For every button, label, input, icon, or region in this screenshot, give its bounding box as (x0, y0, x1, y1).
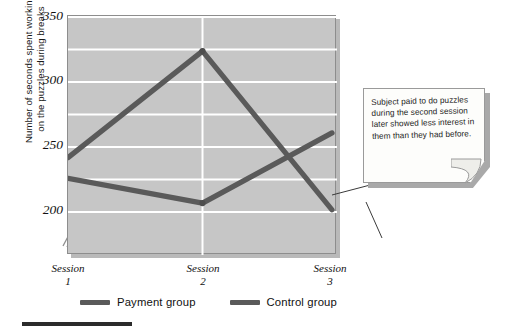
x-tick-session-3-word: Session (314, 262, 347, 274)
x-tick-session-1-number: 1 (30, 275, 106, 288)
y-tick-350: 350 (23, 9, 63, 23)
y-tick-200: 200 (23, 203, 63, 217)
data-point-control-session-2 (199, 200, 205, 206)
legend-label-payment-group: Payment group (117, 296, 196, 308)
series-line-control-group (68, 133, 332, 203)
legend-item-control-group[interactable]: Control group (230, 296, 337, 308)
y-tick-250: 250 (23, 138, 63, 152)
annotation-note-text: Subject paid to do puzzles during the se… (371, 94, 480, 142)
x-tick-session-2-word: Session (187, 262, 220, 274)
legend-swatch-icon-payment-group (80, 300, 110, 305)
page-rule (22, 322, 132, 326)
x-tick-session-3: Session 3 (292, 262, 368, 288)
x-tick-session-2: Session 2 (165, 262, 241, 288)
legend-label-control-group: Control group (267, 296, 337, 308)
annotation-note-curl-icon (451, 157, 487, 185)
x-tick-session-2-number: 2 (165, 275, 241, 288)
annotation-note: Subject paid to do puzzles during the se… (363, 88, 488, 188)
chart-legend: Payment group Control group (80, 296, 337, 308)
y-tick-300: 300 (23, 73, 63, 87)
legend-item-payment-group[interactable]: Payment group (80, 296, 196, 308)
x-tick-session-3-number: 3 (292, 275, 368, 288)
data-point-payment-session-2 (199, 48, 205, 54)
legend-swatch-icon-control-group (230, 300, 260, 305)
plot-area (67, 15, 336, 254)
x-tick-session-1: Session 1 (30, 262, 106, 288)
plot-canvas (68, 16, 337, 255)
chart-figure: Number of seconds spent working on the p… (0, 0, 506, 333)
x-tick-session-1-word: Session (52, 262, 85, 274)
